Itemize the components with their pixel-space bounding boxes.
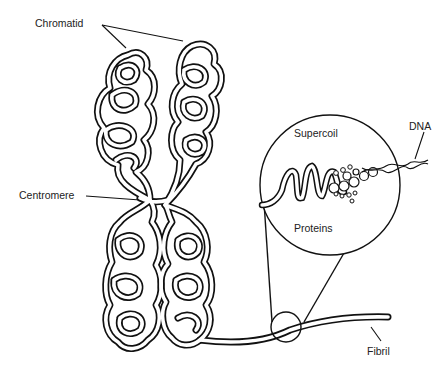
chromosome-diagram [0, 0, 446, 372]
label-chromatid: Chromatid [35, 17, 83, 29]
label-fibril: Fibril [367, 345, 390, 357]
chromatid-leader-left [102, 25, 126, 48]
fibril-leader [371, 327, 381, 341]
label-proteins: Proteins [294, 222, 333, 234]
label-supercoil: Supercoil [294, 127, 338, 139]
label-centromere: Centromere [19, 189, 74, 201]
label-dna: DNA [409, 120, 431, 132]
centromere-leader [86, 196, 140, 200]
chromatid-leader-right [102, 25, 183, 41]
dna-leader [415, 132, 424, 159]
zoom-cone-right [304, 253, 344, 322]
